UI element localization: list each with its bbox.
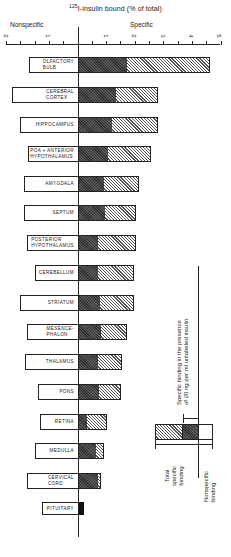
x-axis-line — [6, 44, 220, 45]
legend-specific-unlabeled-label: Specific binding in the presence of 20 n… — [176, 319, 190, 405]
bar-specific-total — [96, 443, 104, 459]
bar-specific-total — [98, 354, 122, 370]
bar-nonspecific: MEDULLA — [35, 443, 79, 459]
region-label-line: HYPOTHALAMUS — [30, 154, 74, 160]
region-label-line: THALAMUS — [46, 359, 74, 365]
bar-nonspecific: CEREBRALCORTEX — [12, 87, 79, 103]
axis-tick-label: 5 — [216, 32, 222, 40]
region-label-line: AMYGDALA — [45, 181, 74, 187]
legend-text-line: Nonspecific — [203, 471, 210, 502]
bar-nonspecific: OLFACTORYBULB — [29, 57, 79, 73]
bar-specific-total — [101, 324, 127, 340]
region-label-line: CORD — [48, 481, 74, 487]
legend-nonspecific-label: Nonspecific binding — [203, 471, 217, 502]
dimension-tick — [155, 440, 156, 449]
legend-swatch-specific-unlabeled — [183, 424, 198, 440]
nonspecific-axis-label: Nonspecific — [10, 21, 44, 28]
region-label-line: PITUITARY — [47, 506, 74, 512]
bar-specific-unlabeled — [79, 176, 104, 192]
region-label: MEDULLA — [50, 448, 75, 454]
region-label-line: STRIATUM — [48, 300, 74, 306]
region-label: STRIATUM — [48, 300, 74, 306]
bar-specific-total — [104, 176, 139, 192]
bar-nonspecific: SEPTUM — [24, 205, 79, 221]
bar-specific-unlabeled — [79, 146, 108, 162]
bar-nonspecific: CEREBELLUM — [35, 265, 79, 281]
bar-nonspecific: POA + ANTERIORHYPOTHALAMUS — [28, 146, 79, 162]
legend-swatch-total-specific — [155, 424, 183, 440]
region-label: SEPTUM — [52, 210, 74, 216]
dimension-arrow-total-specific — [155, 444, 198, 445]
region-label: PONS — [59, 389, 74, 395]
axis-tick-label: 1 — [103, 32, 109, 40]
region-label-line: BULB — [43, 65, 74, 71]
region-label-line: HYPOTHALAMUS — [31, 243, 74, 249]
region-label-line: RETINA — [55, 419, 74, 425]
bar-specific-unlabeled — [79, 295, 100, 311]
bar-nonspecific: POSTERIORHYPOTHALAMUS — [27, 235, 79, 251]
legend-divider-line — [198, 266, 199, 478]
bar-specific-unlabeled — [79, 414, 87, 430]
axis-tick-label: 1 — [45, 32, 51, 40]
bar-specific-total — [112, 117, 158, 133]
bar-specific-total — [108, 146, 151, 162]
specific-axis-label: Specific — [130, 21, 153, 28]
legend-text-line: binding — [178, 466, 185, 486]
chart-title: 125I-insulin bound (% of total) — [0, 3, 231, 12]
legend-text-line: Total — [164, 466, 171, 486]
region-label-line: CORTEX — [46, 95, 74, 101]
zero-line — [78, 27, 79, 537]
bar-nonspecific: THALAMUS — [25, 354, 79, 370]
bar-specific-total — [98, 235, 136, 251]
bar-specific-unlabeled — [79, 443, 96, 459]
bar-specific-unlabeled — [79, 265, 98, 281]
region-label: PITUITARY — [47, 506, 74, 512]
bar-specific-total — [79, 502, 84, 515]
region-label-line: MEDULLA — [50, 448, 75, 454]
region-label: AMYGDALA — [45, 181, 74, 187]
dimension-arrow-specific-unlabeled — [183, 418, 198, 419]
bar-specific-unlabeled — [79, 384, 99, 400]
bar-specific-unlabeled — [79, 117, 112, 133]
legend-text-line: binding — [210, 471, 217, 502]
axis-tick-label: 2 — [3, 32, 9, 40]
bar-nonspecific: PONS — [38, 384, 79, 400]
bar-specific-unlabeled — [79, 87, 116, 103]
bar-nonspecific: STRIATUM — [20, 295, 79, 311]
axis-tick-label: 3 — [160, 32, 166, 40]
bar-nonspecific: AMYGDALA — [24, 176, 79, 192]
bar-specific-total — [87, 414, 107, 430]
region-label: MESENCE-PHALON — [47, 326, 74, 338]
legend-text-line: specific — [171, 466, 178, 486]
region-label: CEREBRALCORTEX — [46, 89, 74, 101]
dimension-tick — [183, 414, 184, 423]
bar-specific-total — [99, 384, 121, 400]
region-label: POSTERIORHYPOTHALAMUS — [31, 237, 74, 249]
bar-specific-unlabeled — [79, 205, 105, 221]
bar-nonspecific: HIPPOCAMPUS — [20, 117, 79, 133]
region-label-line: PHALON — [47, 332, 74, 338]
region-label: HIPPOCAMPUS — [36, 122, 74, 128]
bar-nonspecific: CERVICALCORD — [27, 473, 79, 489]
legend-swatch-nonspecific — [198, 424, 213, 440]
title-text: I-insulin bound (% of total) — [78, 5, 162, 12]
bar-nonspecific: RETINA — [40, 414, 79, 430]
bar-specific-total — [116, 87, 158, 103]
bar-nonspecific: MESENCE-PHALON — [27, 324, 79, 340]
axis-tick — [221, 41, 222, 45]
dimension-arrow-nonspecific — [198, 444, 213, 445]
bar-specific-unlabeled — [79, 324, 101, 340]
region-label-line: PONS — [59, 389, 74, 395]
region-label-line: HIPPOCAMPUS — [36, 122, 74, 128]
region-label-line: CEREBELLUM — [39, 270, 74, 276]
region-label: THALAMUS — [46, 359, 74, 365]
legend-text-line: Specific binding in the presence — [176, 319, 183, 405]
region-label: POA + ANTERIORHYPOTHALAMUS — [30, 148, 74, 160]
axis-tick-label: 2 — [131, 32, 137, 40]
legend-total-specific-label: Total specific binding — [164, 466, 185, 486]
bar-specific-total — [98, 473, 101, 489]
legend-text-line: of 20 ng per ml unlabeled insulin — [183, 319, 190, 405]
dimension-tick — [212, 440, 213, 449]
bar-specific-total — [105, 205, 136, 221]
axis-tick-label: 4 — [188, 32, 194, 40]
